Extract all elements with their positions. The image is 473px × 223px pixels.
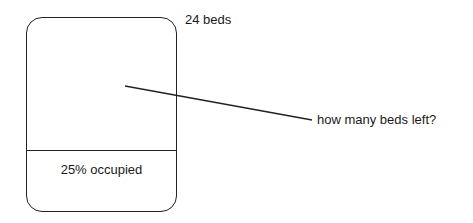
- occupied-label: 25% occupied: [27, 162, 176, 177]
- total-beds-label: 24 beds: [185, 12, 231, 27]
- occupancy-divider: [27, 150, 176, 151]
- question-label: how many beds left?: [317, 112, 436, 127]
- capacity-box: 25% occupied: [26, 17, 177, 212]
